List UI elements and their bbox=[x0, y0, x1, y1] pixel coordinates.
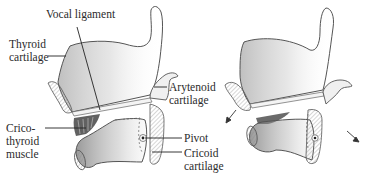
label-thyroid-line1: Thyroid bbox=[9, 38, 46, 50]
label-cricoid-line1: Cricoid bbox=[184, 147, 219, 159]
down-left-arrow bbox=[226, 110, 236, 123]
down-right-arrow bbox=[347, 131, 359, 142]
label-cricoid-line2: cartilage bbox=[184, 160, 224, 172]
larynx-illustration bbox=[0, 0, 365, 186]
label-cricothyroid-line1: Crico- bbox=[6, 122, 35, 134]
label-thyroid-line2: cartilage bbox=[9, 51, 49, 63]
label-cricothyroid-line2: thyroid bbox=[6, 135, 39, 147]
label-pivot: Pivot bbox=[184, 132, 208, 144]
label-vocal-ligament: Vocal ligament bbox=[46, 8, 115, 20]
label-arytenoid-line1: Arytenoid bbox=[169, 81, 216, 93]
left-larynx bbox=[48, 6, 178, 170]
label-arytenoid-line2: cartilage bbox=[169, 94, 209, 106]
right-larynx bbox=[225, 8, 359, 164]
label-cricothyroid-line3: muscle bbox=[6, 148, 39, 160]
thyroid-cartilage-shape bbox=[58, 6, 163, 112]
